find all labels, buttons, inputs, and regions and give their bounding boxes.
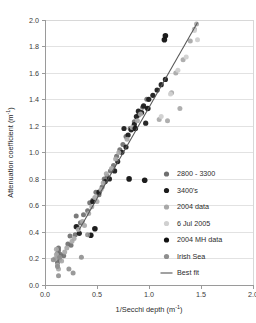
y-tick-label: 0.0 (29, 281, 39, 290)
legend-label: Best fit (177, 268, 199, 277)
x-tick-label: 2.0 (248, 290, 256, 299)
figure-container: 2.0 1.8 1.6 1.4 1.2 1.0 0.8 0.6 0.4 0.2 … (0, 0, 256, 323)
legend-marker-icon (164, 237, 169, 242)
y-axis-title-close: ) (6, 107, 15, 109)
scatter-chart: 2.0 1.8 1.6 1.4 1.2 1.0 0.8 0.6 0.4 0.2 … (0, 0, 256, 323)
y-tick-label: 0.4 (29, 228, 39, 237)
legend-label: 2800 - 3300 (177, 169, 215, 178)
y-tick-label: 1.0 (29, 148, 39, 157)
y-axis-title: Attenuation coefficient (m-1) (5, 107, 15, 198)
y-tick-label: 0.2 (29, 254, 39, 263)
legend-label: 2004 MH data (177, 235, 222, 244)
y-tick-label: 1.2 (29, 122, 39, 131)
y-tick-label: 2.0 (29, 16, 39, 25)
y-axis-ticks: 2.0 1.8 1.6 1.4 1.2 1.0 0.8 0.6 0.4 0.2 … (29, 16, 45, 290)
x-tick-label: 0.5 (92, 290, 102, 299)
x-tick-label: 0.0 (40, 290, 50, 299)
x-axis-title-close: ) (180, 305, 182, 314)
legend-marker-icon (164, 204, 169, 209)
y-tick-label: 1.8 (29, 42, 39, 51)
y-tick-label: 0.6 (29, 201, 39, 210)
legend-marker-icon (164, 188, 169, 193)
legend-label: 3400's (177, 186, 198, 195)
legend-marker-icon (164, 254, 169, 259)
x-axis-ticks: 0.0 0.5 1.0 1.5 2.0 (40, 285, 256, 299)
y-tick-label: 1.6 (29, 69, 39, 78)
x-axis-title-main: 1/Secchi depth (m (116, 305, 176, 314)
x-tick-label: 1.0 (144, 290, 154, 299)
y-tick-label: 0.8 (29, 175, 39, 184)
legend-label: 6 Jul 2005 (177, 219, 210, 228)
x-tick-label: 1.5 (196, 290, 206, 299)
legend-marker-icon (164, 171, 169, 176)
legend-marker-icon (164, 221, 169, 226)
y-axis-title-main: Attenuation coefficient (m (6, 115, 15, 198)
y-tick-label: 1.4 (29, 95, 39, 104)
legend-label: 2004 data (177, 202, 209, 211)
legend-label: Irish Sea (177, 252, 205, 261)
x-axis-title: 1/Secchi depth (m-1) (116, 304, 183, 314)
